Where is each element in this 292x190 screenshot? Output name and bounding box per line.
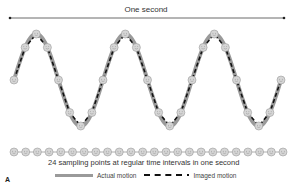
wave-sample-point bbox=[233, 76, 241, 84]
wave-sample-point bbox=[43, 43, 51, 51]
wave-sample-point bbox=[188, 76, 196, 84]
sampling-point bbox=[244, 148, 252, 156]
sampling-point bbox=[33, 148, 41, 156]
sampling-point bbox=[197, 148, 205, 156]
sampling-point bbox=[256, 148, 264, 156]
sampling-point bbox=[162, 148, 170, 156]
wave-sample-point bbox=[244, 109, 252, 117]
wave-sample-point bbox=[266, 109, 274, 117]
sampling-point bbox=[115, 148, 123, 156]
legend-actual-label: Actual motion bbox=[97, 172, 136, 179]
sampling-point bbox=[174, 148, 182, 156]
legend: Actual motion Imaged motion bbox=[55, 170, 236, 180]
legend-imaged-swatch bbox=[144, 174, 182, 176]
legend-imaged-dot bbox=[187, 174, 189, 176]
sampling-point bbox=[267, 148, 275, 156]
span-label: One second bbox=[0, 5, 292, 14]
motion-sampling-figure: One second 24 sampling points at regular… bbox=[0, 0, 292, 190]
wave-sample-point bbox=[32, 30, 40, 38]
wave-sample-point bbox=[132, 43, 140, 51]
panel-label: A bbox=[5, 176, 10, 183]
wave-sample-point bbox=[144, 76, 152, 84]
sampling-point bbox=[139, 148, 147, 156]
wave-sample-point bbox=[277, 76, 285, 84]
wave-sample-point bbox=[99, 76, 107, 84]
wave-sample-point bbox=[255, 122, 263, 130]
wave-sample-point bbox=[221, 43, 229, 51]
span-start-dot bbox=[9, 17, 12, 20]
sampling-point bbox=[127, 148, 135, 156]
wave-sample-point bbox=[77, 122, 85, 130]
legend-actual-swatch bbox=[55, 174, 93, 177]
span-end-dot bbox=[283, 17, 286, 20]
wave-sample-point bbox=[177, 109, 185, 117]
wave-sample-point bbox=[210, 30, 218, 38]
wave-sample-point bbox=[121, 30, 129, 38]
sampling-point bbox=[150, 148, 158, 156]
wave-sample-point bbox=[66, 109, 74, 117]
wave-sample-point bbox=[88, 109, 96, 117]
sampling-point bbox=[57, 148, 65, 156]
sampling-point bbox=[104, 148, 112, 156]
sampling-point bbox=[80, 148, 88, 156]
wave-sample-point bbox=[21, 43, 29, 51]
sampling-point bbox=[221, 148, 229, 156]
wave-sample-point bbox=[55, 76, 63, 84]
sampling-point bbox=[10, 148, 18, 156]
sampling-point bbox=[209, 148, 217, 156]
sampling-point bbox=[279, 148, 287, 156]
sampling-point bbox=[45, 148, 53, 156]
sampling-point bbox=[92, 148, 100, 156]
wave-sample-point bbox=[166, 122, 174, 130]
legend-imaged-label: Imaged motion bbox=[193, 172, 236, 179]
sampling-point bbox=[232, 148, 240, 156]
sampling-caption: 24 sampling points at regular time inter… bbox=[48, 158, 239, 167]
sampling-point bbox=[68, 148, 76, 156]
wave-sample-point bbox=[155, 109, 163, 117]
sampling-point bbox=[22, 148, 30, 156]
sampling-point bbox=[185, 148, 193, 156]
wave-sample-point bbox=[199, 43, 207, 51]
wave-sample-point bbox=[110, 43, 118, 51]
wave-sample-point bbox=[10, 76, 18, 84]
